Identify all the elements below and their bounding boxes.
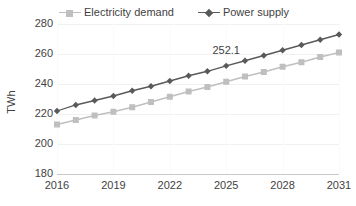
data-point-marker — [223, 79, 229, 85]
data-point-marker — [73, 102, 79, 108]
y-tick-label: 260 — [23, 48, 53, 59]
data-point-marker — [167, 78, 173, 84]
data-annotation-252: 252.1 — [206, 44, 246, 56]
data-point-marker — [261, 52, 267, 58]
data-point-marker — [242, 74, 248, 80]
x-tick-label: 2025 — [206, 179, 246, 192]
data-point-marker — [110, 109, 116, 115]
data-point-marker — [279, 47, 285, 53]
data-point-marker — [242, 58, 248, 64]
data-point-marker — [298, 42, 304, 48]
y-tick-label: 220 — [23, 108, 53, 119]
data-point-marker — [91, 97, 97, 103]
plot-area — [57, 24, 339, 174]
data-point-marker — [167, 94, 173, 100]
data-point-marker — [148, 83, 154, 89]
data-point-marker — [54, 108, 60, 114]
data-point-marker — [298, 59, 304, 65]
grid-line-vertical — [339, 24, 340, 174]
legend-label-electricity-demand: Electricity demand — [84, 6, 174, 18]
data-point-marker — [73, 117, 79, 123]
legend-item-electricity-demand[interactable]: Electricity demand — [59, 6, 174, 18]
data-point-marker — [336, 50, 342, 56]
data-point-marker — [336, 31, 342, 37]
x-tick-label: 2016 — [37, 179, 77, 192]
y-axis-label: TWh — [5, 82, 17, 122]
data-point-marker — [54, 122, 60, 128]
x-tick-label: 2019 — [93, 179, 133, 192]
data-point-marker — [186, 89, 192, 95]
legend-label-power-supply: Power supply — [223, 6, 289, 18]
data-point-marker — [261, 69, 267, 75]
data-point-marker — [204, 84, 210, 90]
data-point-marker — [148, 99, 154, 105]
x-tick-label: 2022 — [150, 179, 190, 192]
x-tick-label: 2028 — [263, 179, 303, 192]
y-tick-label: 200 — [23, 138, 53, 149]
data-point-marker — [280, 64, 286, 70]
data-point-marker — [129, 104, 135, 110]
data-point-marker — [223, 63, 229, 69]
legend-marker-square-icon — [59, 7, 81, 18]
x-axis-ticks: 201620192022202520282031 — [57, 179, 339, 195]
series-line — [57, 53, 339, 125]
series-lines — [57, 24, 339, 174]
data-point-marker — [185, 73, 191, 79]
legend-item-power-supply[interactable]: Power supply — [198, 6, 289, 18]
data-point-marker — [92, 113, 98, 119]
data-point-marker — [204, 68, 210, 74]
series-line — [57, 35, 339, 112]
legend-marker-diamond-icon — [198, 7, 220, 18]
x-tick-label: 2031 — [319, 179, 356, 192]
data-point-marker — [317, 54, 323, 60]
data-point-marker — [129, 88, 135, 94]
y-axis-ticks: 180200220240260280 — [20, 24, 53, 174]
y-tick-label: 180 — [23, 168, 53, 179]
data-point-marker — [317, 37, 323, 43]
y-tick-label: 280 — [23, 18, 53, 29]
data-point-marker — [110, 93, 116, 99]
grid-line-horizontal — [57, 174, 339, 175]
y-tick-label: 240 — [23, 78, 53, 89]
